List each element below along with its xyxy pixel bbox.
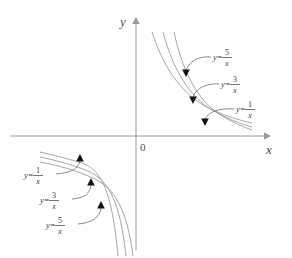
leader-ll-k3 (72, 185, 91, 199)
label-ll-k3-lhs: y= (39, 195, 50, 205)
label-ll-k3-numerator: 3 (52, 191, 56, 200)
axes-group: x y 0 (10, 14, 272, 250)
y-axis-arrowhead (132, 17, 140, 24)
label-ur-k1-numerator: 1 (248, 100, 252, 109)
label-ll-k5-lhs: y= (45, 220, 56, 230)
leader-ll-k1 (56, 161, 80, 174)
origin-label: 0 (140, 141, 146, 153)
arrowhead-ur-k1 (201, 119, 209, 127)
leader-ur-k3 (193, 84, 219, 97)
label-ur-k5-numerator: 5 (225, 48, 229, 57)
label-ll-k3-denominator: x (51, 202, 56, 211)
label-ll-k1-lhs: y= (23, 170, 34, 180)
label-ur-k1: y= 1 x (235, 100, 255, 120)
label-ll-k3: y= 3 x (39, 191, 59, 211)
label-ur-k5: y= 5 x (212, 48, 232, 68)
label-ur-k1-lhs: y= (235, 104, 246, 114)
y-axis-label: y (118, 14, 126, 29)
label-ll-k1-denominator: x (35, 177, 40, 186)
callouts-lower-left (56, 154, 105, 224)
label-ur-k3-denominator: x (232, 86, 237, 95)
label-ur-k3-numerator: 3 (233, 75, 237, 84)
x-axis-label: x (265, 142, 272, 157)
leader-ur-k5 (186, 57, 211, 70)
label-ur-k3-lhs: y= (220, 79, 231, 89)
hyperbola-figure: x y 0 (0, 0, 292, 258)
arrowhead-ll-k3 (87, 178, 95, 186)
quadrant-1-curves (152, 32, 252, 130)
arrowhead-ur-k5 (182, 70, 190, 78)
label-ll-k1: y= 1 x (23, 166, 43, 186)
x-axis-arrowhead (264, 132, 271, 140)
label-ur-k5-lhs: y= (212, 52, 223, 62)
label-ur-k3: y= 3 x (220, 75, 240, 95)
label-ll-k1-numerator: 1 (36, 166, 40, 175)
arrowhead-ll-k5 (97, 201, 105, 209)
label-ll-k5-numerator: 5 (58, 216, 62, 225)
leader-ll-k5 (78, 208, 101, 224)
arrowhead-ll-k1 (76, 154, 84, 162)
curve-q1-k1 (174, 32, 252, 130)
label-ur-k1-denominator: x (247, 111, 252, 120)
label-ur-k5-denominator: x (224, 59, 229, 68)
label-ll-k5: y= 5 x (45, 216, 65, 236)
label-ll-k5-denominator: x (57, 227, 62, 236)
